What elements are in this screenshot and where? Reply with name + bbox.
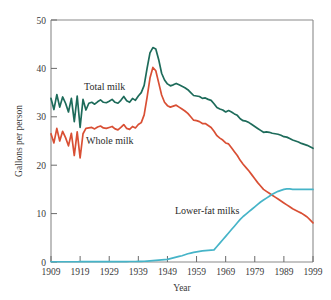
- x-tick-label: 1939: [129, 267, 148, 277]
- milk-consumption-line-chart: 50 40 30 20 10 0 Gallons per person 1909…: [0, 0, 331, 300]
- x-tick-label: 1909: [42, 267, 61, 277]
- chart-background: [0, 0, 331, 300]
- series-annotation-lower-fat-milks: Lower-fat milks: [175, 205, 240, 216]
- x-tick-label: 1959: [187, 267, 206, 277]
- x-tick-label: 1999: [304, 267, 323, 277]
- x-axis-title: Year: [173, 283, 191, 293]
- chart-page: 50 40 30 20 10 0 Gallons per person 1909…: [0, 0, 331, 300]
- x-tick-label: 1969: [216, 267, 235, 277]
- y-tick-label: 20: [37, 161, 47, 171]
- series-annotation-whole-milk: Whole milk: [86, 135, 134, 146]
- y-tick-label: 0: [41, 258, 46, 268]
- y-tick-label: 30: [37, 112, 47, 122]
- x-tick-label: 1949: [158, 267, 177, 277]
- x-tick-label: 1979: [245, 267, 264, 277]
- series-annotation-total-milk: Total milk: [84, 81, 125, 92]
- x-tick-label: 1919: [71, 267, 90, 277]
- y-axis-title: Gallons per person: [14, 105, 24, 177]
- y-tick-label: 50: [37, 16, 47, 26]
- x-tick-label: 1989: [274, 267, 293, 277]
- y-tick-label: 10: [37, 209, 47, 219]
- x-tick-label: 1929: [100, 267, 119, 277]
- y-tick-label: 40: [37, 64, 47, 74]
